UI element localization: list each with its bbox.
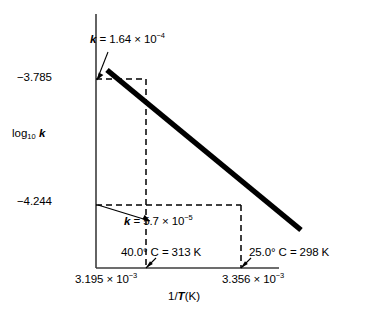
y-axis-title-sub: 10 [27,132,35,141]
y-tick-label-upper: −3.785 [17,72,52,84]
annot-lower-exp: −5 [184,213,192,222]
plot-canvas [0,0,369,315]
y-tick-label-lower: −4.244 [17,196,52,208]
y-axis-title-log: log [12,127,27,139]
annotation-temperature-left: 40.0° C = 313 K [121,247,201,259]
x-tick-left-times: × [106,273,113,285]
x-axis-title-pre: 1/ [168,290,178,302]
y-axis-title-var: k [39,127,45,139]
x-tick-left-exp: −3 [129,271,137,280]
x-tick-right-base: 10 [263,273,276,285]
annot-lower-times: × [162,215,169,227]
annot-lower-var: k [124,215,130,227]
annot-upper-base: 10 [144,33,157,45]
annot-lower-base: 10 [172,215,185,227]
x-axis-title-post: (K) [185,290,200,302]
annot-upper-exp: −4 [157,31,165,40]
arrhenius-plot-figure: −3.785 −4.244 log10 k 3.195 × 10−3 3.356… [0,0,369,315]
annotation-rate-constant-upper: k = 1.64 × 10−4 [90,34,165,46]
x-tick-right-mantissa: 3.356 [222,273,250,285]
y-axis-title: log10 k [12,128,45,140]
annot-upper-eq: = [99,33,106,45]
x-tick-right-exp: −3 [276,271,284,280]
annot-upper-times: × [134,33,141,45]
x-tick-label-right: 3.356 × 10−3 [222,274,284,286]
annot-upper-var: k [90,33,96,45]
x-tick-label-left: 3.195 × 10−3 [75,274,137,286]
x-tick-left-base: 10 [116,273,129,285]
x-tick-left-mantissa: 3.195 [75,273,103,285]
annotation-temperature-right: 25.0° C = 298 K [249,247,329,259]
x-axis-title-var: T [178,290,185,302]
annot-upper-mantissa: 1.64 [109,33,131,45]
annot-lower-mantissa: 5.7 [143,215,159,227]
x-tick-right-times: × [253,273,260,285]
x-axis-title: 1/T(K) [168,291,200,303]
annot-lower-eq: = [133,215,140,227]
annotation-rate-constant-lower: k = 5.7 × 10−5 [124,216,193,228]
data-line [107,70,301,230]
